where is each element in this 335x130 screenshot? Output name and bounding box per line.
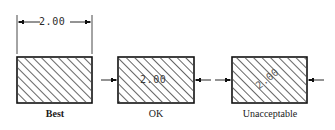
dimension-value-ok: 2.00 (140, 74, 166, 85)
dimension-value-best: 2.00 (39, 16, 65, 27)
caption-best: Best (14, 108, 96, 120)
section-hatch-best (18, 58, 91, 102)
dimensioning-figure: 2.00 2.00 2.00 Best OK Unacceptable (0, 0, 335, 130)
caption-ok: OK (116, 108, 196, 120)
caption-unacceptable: Unacceptable (229, 108, 311, 120)
